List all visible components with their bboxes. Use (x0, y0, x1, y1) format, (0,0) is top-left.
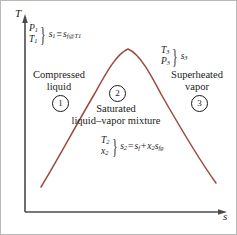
state-1-properties: P1 T1 (29, 23, 38, 46)
region-3-label-line1: Superheated (171, 69, 223, 80)
state-2-result: s2=sf+x2sfg (120, 141, 163, 151)
state-3-annotation: T3 P3 } s3 (161, 45, 188, 68)
state-1-result: s1≡sf@T1 (49, 29, 82, 39)
region-2-label: Saturated liquid–vapor mixture (63, 103, 169, 127)
region-3-label-line2: vapor (185, 81, 209, 92)
state-1-property-temperature: T1 (29, 34, 38, 45)
state-2-properties: T2 x2 (101, 135, 110, 158)
state-2-brace: } (112, 139, 117, 155)
state-1-property-pressure: P1 (29, 23, 38, 34)
state-3-property-pressure: P3 (161, 56, 170, 67)
state-3-brace: } (172, 49, 177, 65)
state-2-property-quality: x2 (101, 146, 108, 157)
state-2-property-temperature: T2 (101, 135, 110, 146)
region-1-label-line1: Compressed (33, 69, 85, 80)
region-2-label-line2: liquid–vapor mixture (72, 115, 161, 126)
state-3-result: s3 (181, 51, 188, 61)
region-1-label: Compressed liquid (23, 69, 95, 93)
t-axis-arrowhead (22, 14, 28, 23)
ts-diagram-figure: T s P1 T1 } s1≡sf@T1 T3 P3 } s3 T2 x2 } … (0, 0, 237, 235)
region-2-label-line1: Saturated (96, 103, 136, 114)
region-2-number: 2 (109, 85, 126, 102)
t-axis-label: T (15, 7, 21, 19)
state-3-properties: T3 P3 (161, 45, 170, 68)
s-axis-label: s (223, 210, 227, 222)
region-3-label: Superheated vapor (161, 69, 233, 93)
state-3-property-temperature: T3 (161, 45, 170, 56)
state-1-annotation: P1 T1 } s1≡sf@T1 (29, 23, 81, 46)
region-3-number: 3 (191, 95, 208, 112)
region-1-label-line2: liquid (47, 81, 72, 92)
state-2-annotation: T2 x2 } s2=sf+x2sfg (101, 135, 163, 158)
state-1-brace: } (40, 27, 45, 43)
